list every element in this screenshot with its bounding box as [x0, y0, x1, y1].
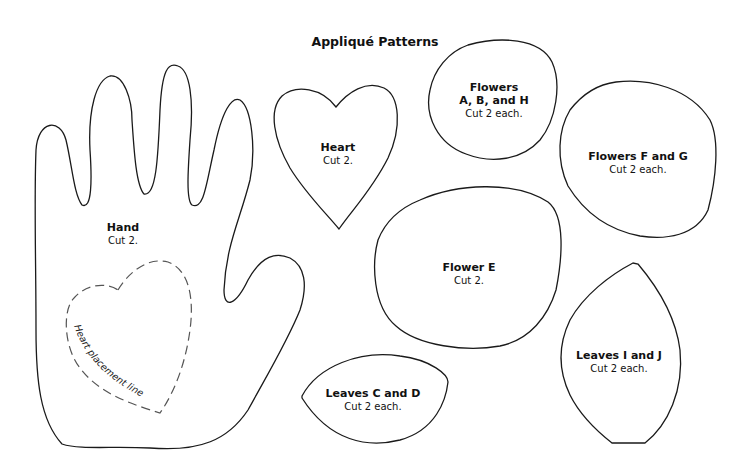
leaves-cd-instruction: Cut 2 each.: [326, 400, 421, 413]
flowers-abh-name-line1: Flowers: [459, 81, 528, 94]
heart-label: Heart Cut 2.: [321, 141, 356, 167]
flower-e-label: Flower E Cut 2.: [442, 261, 495, 287]
hand-label: Hand Cut 2.: [107, 221, 139, 247]
flowers-fg-label: Flowers F and G Cut 2 each.: [588, 150, 688, 176]
leaves-cd-name: Leaves C and D: [326, 387, 421, 400]
flowers-abh-name-line2: A, B, and H: [459, 94, 528, 107]
heart-name: Heart: [321, 141, 356, 154]
flower-e-name: Flower E: [442, 261, 495, 274]
hand-instruction: Cut 2.: [107, 234, 139, 247]
leaves-ij-label: Leaves I and J Cut 2 each.: [576, 349, 662, 375]
hand-shape: [35, 65, 304, 449]
leaves-ij-instruction: Cut 2 each.: [576, 362, 662, 375]
hand-name: Hand: [107, 221, 139, 234]
flowers-abh-instruction: Cut 2 each.: [459, 107, 528, 120]
flowers-fg-instruction: Cut 2 each.: [588, 163, 688, 176]
flower-e-instruction: Cut 2.: [442, 274, 495, 287]
flowers-abh-label: Flowers A, B, and H Cut 2 each.: [459, 81, 528, 120]
leaves-ij-name: Leaves I and J: [576, 349, 662, 362]
leaves-cd-label: Leaves C and D Cut 2 each.: [326, 387, 421, 413]
page-title: Appliqué Patterns: [311, 34, 438, 49]
heart-instruction: Cut 2.: [321, 154, 356, 167]
flowers-fg-name: Flowers F and G: [588, 150, 688, 163]
